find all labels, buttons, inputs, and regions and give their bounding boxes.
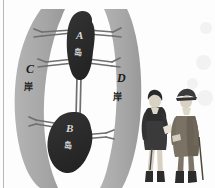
person-left-figure	[142, 90, 173, 182]
landmass-B-island	[47, 112, 92, 173]
konigsberg-bridges-illustration: A 岛 B 岛 C 岸 D 岸	[0, 0, 215, 188]
landmass-A-island	[67, 11, 95, 80]
person-right-figure	[171, 89, 203, 183]
bridge-4-A-to-D	[88, 58, 120, 67]
map-canvas	[0, 0, 215, 188]
bridge-5-A-to-B	[76, 76, 81, 118]
